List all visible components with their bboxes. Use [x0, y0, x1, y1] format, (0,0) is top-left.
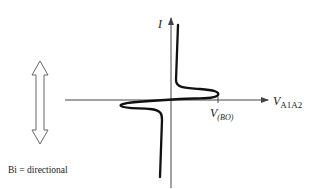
vi-curve: [121, 25, 219, 177]
caption-text: Bi = directional: [8, 165, 68, 175]
bidirectional-arrow-icon: [32, 61, 48, 144]
y-axis-label: I: [158, 17, 162, 32]
breakover-label-sub: (BO): [217, 113, 233, 122]
x-axis-label: VA1A2: [273, 94, 302, 110]
x-axis-label-sub: A1A2: [280, 100, 302, 110]
characteristic-diagram: [0, 0, 311, 189]
breakover-voltage-label: V(BO): [210, 106, 233, 122]
